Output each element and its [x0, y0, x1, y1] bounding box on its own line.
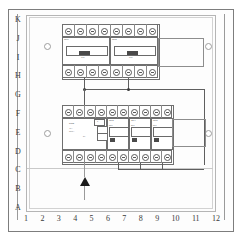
upper-bot-divider-1 — [74, 65, 75, 78]
lower-terminal-top-10 — [164, 109, 171, 116]
lower-terminal-bottom-5 — [109, 154, 116, 161]
upper-terminal-top-1 — [65, 28, 72, 35]
mounting-hole-top-left — [44, 43, 51, 50]
rcd-rating-label: 40A — [69, 127, 73, 129]
wire-busbar-horizontal — [84, 89, 204, 90]
upper-terminal-top-4 — [101, 28, 108, 35]
lower-terminal-bottom-9 — [153, 154, 160, 161]
lower-terminal-top-2 — [76, 109, 83, 116]
lower-bot-divider-6 — [128, 150, 129, 163]
upper-breaker-QF2-lever[interactable] — [127, 51, 138, 55]
upper-bot-divider-4 — [110, 65, 111, 78]
lower-bot-divider-2 — [84, 150, 85, 163]
lower-bot-divider-3 — [95, 150, 96, 163]
lower-breaker-QF4-lever-window[interactable] — [131, 127, 151, 137]
upper-terminal-bottom-3 — [89, 69, 96, 76]
grid-row-J: J — [16, 35, 19, 43]
lower-terminal-bottom-1 — [65, 154, 72, 161]
lower-terminal-top-4 — [98, 109, 105, 116]
lower-terminal-bottom-6 — [120, 154, 127, 161]
upper-bot-divider-5 — [122, 65, 123, 78]
lower-bot-divider-7 — [139, 150, 140, 163]
grid-col-3: 3 — [57, 215, 61, 223]
upper-top-divider-2 — [86, 24, 87, 37]
lower-terminal-top-8 — [142, 109, 149, 116]
lower-terminal-bottom-10 — [164, 154, 171, 161]
lower-bot-divider-5 — [117, 150, 118, 163]
upper-breaker-QF1-label: QF1 — [64, 39, 69, 42]
grid-col-2: 2 — [40, 215, 44, 223]
panel-layout-drawing: K J I H G F E D C B A 1 2 3 4 5 6 7 8 9 … — [0, 0, 241, 240]
upper-terminal-bottom-2 — [77, 69, 84, 76]
lower-breaker-QF4-lever[interactable] — [132, 138, 137, 142]
lower-breaker-QF5-label: QF5 — [153, 120, 158, 123]
lower-terminal-top-7 — [131, 109, 138, 116]
lower-top-divider-5 — [117, 105, 118, 118]
upper-terminal-bottom-4 — [101, 69, 108, 76]
lower-bot-divider-8 — [150, 150, 151, 163]
lower-breaker-QF3-lever[interactable] — [110, 138, 115, 142]
supply-stem-lower — [84, 186, 85, 200]
mounting-hole-top-right — [205, 43, 212, 50]
mounting-hole-bottom-left — [44, 130, 51, 137]
lower-terminal-bottom-8 — [142, 154, 149, 161]
grid-col-8: 8 — [139, 215, 143, 223]
upper-breaker-QF1-lever[interactable] — [79, 51, 90, 55]
lower-breaker-QF3-label: QF3 — [109, 120, 114, 123]
upper-terminal-top-8 — [149, 28, 156, 35]
lower-breaker-QF3-rating: B16 — [109, 124, 113, 126]
upper-breaker-QF2-rating: C16 — [129, 56, 133, 58]
upper-top-divider-4 — [110, 24, 111, 37]
supply-stem-upper — [84, 163, 85, 177]
lower-top-divider-9 — [161, 105, 162, 118]
upper-terminal-bottom-1 — [65, 69, 72, 76]
upper-bot-divider-7 — [146, 65, 147, 78]
upper-right-cable-outline — [158, 38, 204, 67]
lower-terminal-bottom-3 — [87, 154, 94, 161]
wire-outgoing-collector — [118, 169, 204, 170]
lower-top-divider-8 — [150, 105, 151, 118]
grid-col-1: 1 — [24, 215, 28, 223]
lower-bot-divider-4 — [106, 150, 107, 163]
upper-top-divider-3 — [98, 24, 99, 37]
grid-col-11: 11 — [192, 215, 200, 223]
lower-bot-divider-9 — [161, 150, 162, 163]
upper-bot-divider-2 — [86, 65, 87, 78]
lower-breaker-QF5-lever-window[interactable] — [153, 127, 173, 137]
lower-breaker-QF5-lever[interactable] — [154, 138, 159, 142]
upper-top-divider-5 — [122, 24, 123, 37]
lower-terminal-bottom-7 — [131, 154, 138, 161]
upper-top-divider-6 — [134, 24, 135, 37]
grid-row-D: D — [15, 148, 21, 156]
lower-breaker-QF3-lever-window[interactable] — [109, 127, 129, 137]
rcd-test-button[interactable] — [94, 119, 105, 126]
rcd-test-label: T — [97, 120, 98, 122]
grid-row-letters: K J I H G F E D C B A — [12, 16, 24, 212]
upper-bot-divider-6 — [134, 65, 135, 78]
grid-col-6: 6 — [106, 215, 110, 223]
upper-terminal-top-7 — [137, 28, 144, 35]
upper-terminal-top-5 — [113, 28, 120, 35]
lower-terminal-top-1 — [65, 109, 72, 116]
mounting-hole-bottom-right — [205, 130, 212, 137]
lower-terminal-bottom-2 — [76, 154, 83, 161]
incoming-supply-arrow-icon — [80, 177, 90, 186]
lower-top-divider-1 — [73, 105, 74, 118]
lower-breaker-QF4-label: QF4 — [131, 120, 136, 123]
upper-breaker-QF2-label: QF2 — [112, 39, 117, 42]
wire-node-right — [127, 88, 130, 91]
lower-terminal-top-5 — [109, 109, 116, 116]
upper-terminal-bottom-7 — [137, 69, 144, 76]
grid-row-A: A — [15, 204, 21, 212]
lower-breaker-QF4-rating: B16 — [131, 124, 135, 126]
upper-terminal-top-3 — [89, 28, 96, 35]
grid-col-12: 12 — [212, 215, 220, 223]
upper-breaker-QF1-rating: C16 — [81, 56, 85, 58]
lower-right-cable-outline — [172, 119, 206, 147]
lower-terminal-top-9 — [153, 109, 160, 116]
lower-bot-divider-1 — [73, 150, 74, 163]
grid-row-B: B — [15, 185, 20, 193]
lower-top-divider-6 — [128, 105, 129, 118]
grid-col-10: 10 — [172, 215, 180, 223]
grid-row-H: H — [15, 72, 21, 80]
